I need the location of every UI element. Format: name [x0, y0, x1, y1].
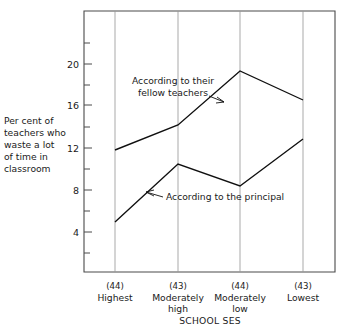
y-axis-label-line-2: teachers who [4, 127, 66, 138]
plot-border [84, 11, 335, 272]
x-count-moderately-low: (44) [231, 281, 249, 291]
x-count-lowest: (43) [294, 281, 312, 291]
x-axis-title: SCHOOL SES [179, 315, 241, 326]
y-axis-label-line-3: waste a lot [4, 139, 55, 150]
ytick-label-20: 20 [67, 59, 79, 70]
series-principal [115, 139, 303, 222]
annotation-fellow-teachers-line-2: fellow teachers [138, 87, 208, 98]
vertical-gridlines [115, 11, 303, 272]
ytick-label-16: 16 [67, 100, 79, 111]
x-category-moderately-high-line-1: Moderately [152, 292, 204, 303]
y-axis-label: Per cent of teachers who waste a lot of … [4, 115, 66, 174]
annotation-fellow-teachers-line-1: According to their [132, 75, 214, 86]
y-axis-label-line-1: Per cent of [4, 115, 54, 126]
ytick-label-8: 8 [73, 185, 79, 196]
plot-frame [84, 11, 335, 272]
x-category-moderately-low-line-2: low [232, 303, 248, 314]
ytick-label-4: 4 [73, 227, 79, 238]
annotation-principal: According to the principal [146, 190, 284, 202]
annotation-fellow-teachers-leader [209, 96, 224, 102]
x-category-lowest: Lowest [287, 292, 320, 303]
x-category-moderately-high-line-2: high [168, 303, 188, 314]
y-axis-label-line-4: of time in [4, 151, 48, 162]
x-axis-title-label: SCHOOL SES [179, 315, 241, 326]
annotation-principal-label: According to the principal [166, 191, 284, 202]
series-line-principal [115, 139, 303, 222]
line-chart: 20 16 12 8 4 Per cent of teachers who wa… [0, 0, 346, 329]
y-axis-tick-labels: 20 16 12 8 4 [67, 59, 79, 238]
x-axis-count-labels: (44) (43) (44) (43) [106, 281, 312, 291]
x-count-moderately-high: (43) [169, 281, 187, 291]
y-axis-ticks [84, 43, 92, 253]
x-count-highest: (44) [106, 281, 124, 291]
x-category-moderately-low-line-1: Moderately [214, 292, 266, 303]
ytick-label-12: 12 [67, 143, 79, 154]
y-axis-label-line-5: classroom [4, 163, 51, 174]
annotation-principal-leader [146, 192, 163, 197]
x-axis-category-labels: Highest Moderately high Moderately low L… [97, 292, 319, 314]
chart-figure: 20 16 12 8 4 Per cent of teachers who wa… [0, 0, 346, 329]
x-category-highest: Highest [97, 292, 133, 303]
